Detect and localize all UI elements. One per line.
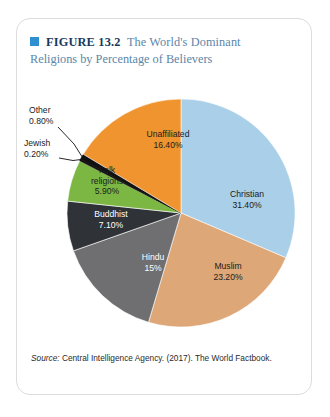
- pie-label-unaffiliated: Unaffiliated 16.40%: [134, 129, 202, 150]
- source-label: Source:: [31, 353, 60, 363]
- pie-callout-jewish: Jewish 0.20%: [24, 138, 50, 159]
- figure-bullet-icon: [30, 37, 39, 46]
- pie-callout-jewish-value: 0.20%: [24, 149, 48, 159]
- figure-number: FIGURE 13.2: [46, 35, 121, 49]
- source-note: Source: Central Intelligence Agency. (20…: [31, 352, 289, 364]
- pie-label-folk-religions: Folk religions 5.90%: [78, 165, 136, 197]
- figure-title-line-2: Religions by Percentage of Believers: [30, 51, 300, 68]
- pie-label-buddhist: Buddhist 7.10%: [80, 209, 142, 230]
- pie-label-muslim-value: 23.20%: [213, 272, 242, 282]
- pie-label-christian-name: Christian: [230, 189, 264, 199]
- pie-label-muslim-name: Muslim: [214, 261, 241, 271]
- pie-chart-svg: [17, 89, 311, 339]
- pie-label-folk-religions-name-1: Folk: [99, 165, 115, 175]
- pie-leader-lines: [58, 127, 83, 161]
- pie-chart: Christian 31.40% Muslim 23.20% Hindu 15%…: [17, 89, 311, 339]
- pie-callout-other: Other 0.80%: [29, 105, 53, 126]
- pie-label-folk-religions-value: 5.90%: [95, 186, 119, 196]
- pie-label-christian-value: 31.40%: [232, 200, 261, 210]
- pie-label-hindu: Hindu 15%: [125, 252, 181, 273]
- pie-callout-other-value: 0.80%: [29, 116, 53, 126]
- figure-title-line-1: FIGURE 13.2 The World's Dominant: [30, 34, 300, 51]
- figure-card: FIGURE 13.2 The World's Dominant Religio…: [16, 18, 312, 395]
- figure-title-part-1: The World's Dominant: [127, 35, 241, 49]
- pie-callout-other-name: Other: [29, 105, 51, 115]
- pie-label-buddhist-value: 7.10%: [99, 220, 123, 230]
- pie-label-hindu-name: Hindu: [142, 252, 164, 262]
- leader-line-other: [58, 127, 83, 158]
- pie-label-unaffiliated-value: 16.40%: [153, 140, 182, 150]
- pie-callout-jewish-name: Jewish: [24, 138, 50, 148]
- figure-header: FIGURE 13.2 The World's Dominant Religio…: [30, 34, 300, 68]
- pie-label-hindu-value: 15%: [144, 263, 161, 273]
- pie-label-muslim: Muslim 23.20%: [197, 261, 259, 282]
- pie-label-folk-religions-name-2: religions: [91, 176, 123, 186]
- pie-label-christian: Christian 31.40%: [214, 189, 280, 210]
- pie-label-buddhist-name: Buddhist: [94, 209, 127, 219]
- source-text: Central Intelligence Agency. (2017). The…: [60, 353, 272, 363]
- pie-label-unaffiliated-name: Unaffiliated: [147, 129, 190, 139]
- leader-line-jewish: [59, 158, 81, 161]
